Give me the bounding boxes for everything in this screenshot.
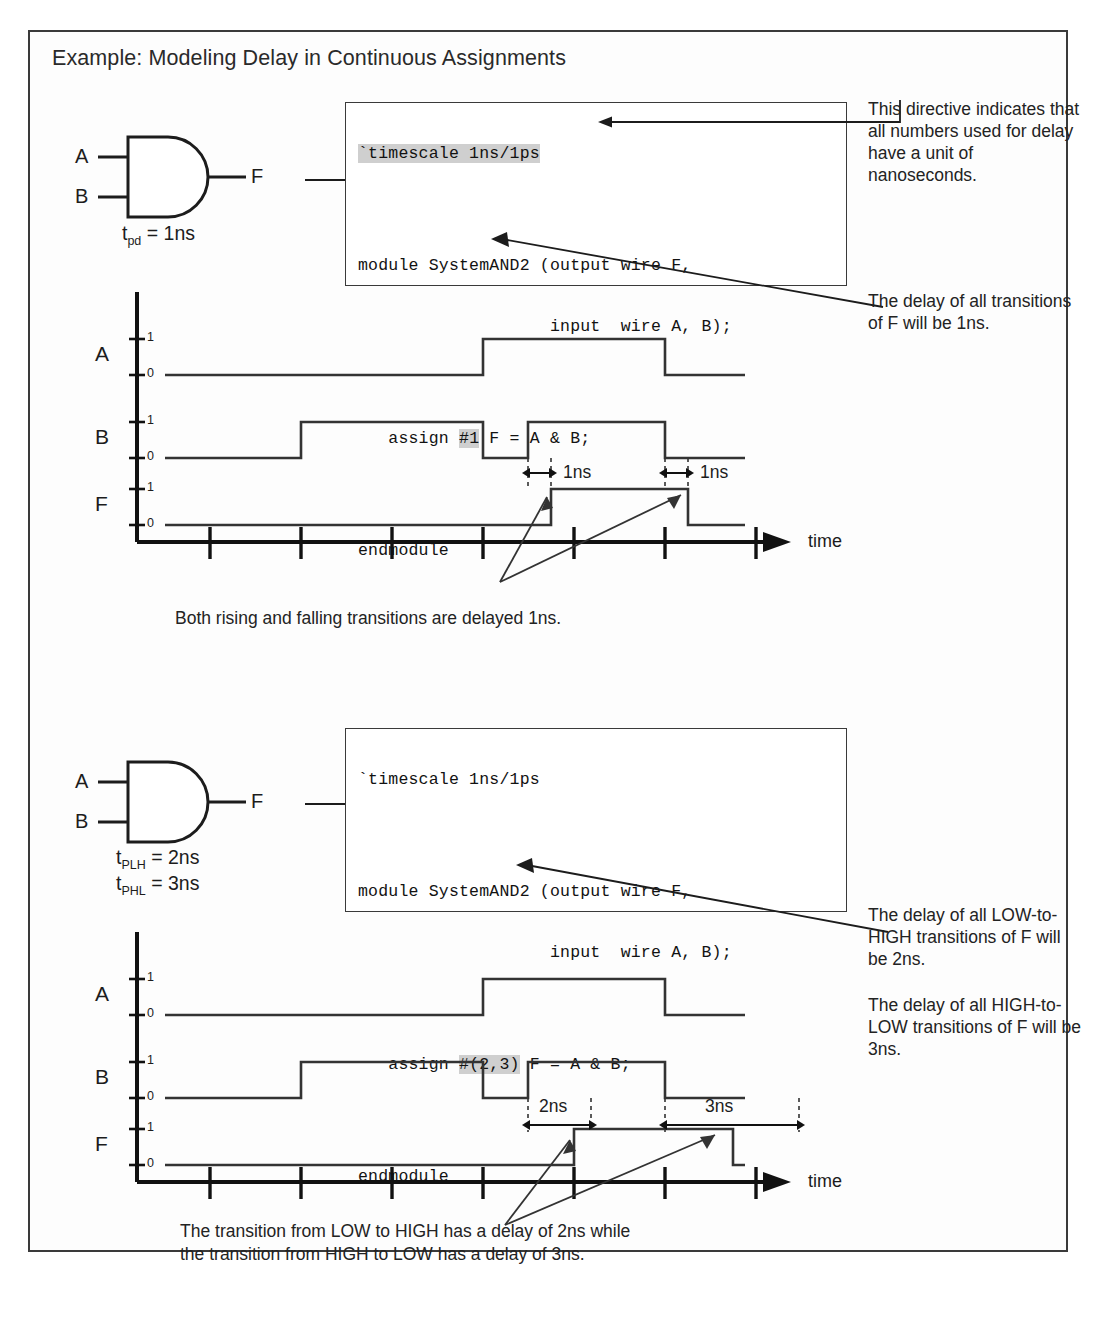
gate2-tphl-label: tPHL = 3ns (116, 872, 199, 898)
waveform1-f-high: 1 (147, 480, 154, 494)
note-low-to-high-delay: The delay of all LOW-to-HIGH transitions… (868, 904, 1083, 970)
gate2-tphl-value: = 3ns (146, 872, 200, 894)
gate1-input-b-label: B (75, 185, 88, 208)
waveform1-delay-marker-1: 1ns (563, 462, 591, 483)
waveform2-b-low: 0 (147, 1089, 154, 1103)
note1-leader-line (590, 92, 902, 138)
code1-line-1: `timescale 1ns/1ps (358, 146, 834, 174)
gate2-input-b-label: B (75, 810, 88, 833)
and-gate-2: A B F tPLH = 2ns tPHL = 3ns (50, 742, 350, 917)
waveform1-f-low: 0 (147, 516, 154, 530)
waveform1-b-low: 0 (147, 449, 154, 463)
timing-diagram-2-svg (85, 922, 875, 1212)
note1-leader-svg (590, 92, 902, 138)
code2-line-1: `timescale 1ns/1ps (358, 772, 834, 800)
caption-section-1: Both rising and falling transitions are … (175, 607, 561, 630)
timing-diagram-1-svg (85, 282, 875, 572)
note-transition-delay-1ns: The delay of all transitions of F will b… (868, 290, 1083, 334)
note-high-to-low-delay: The delay of all HIGH-to-LOW transitions… (868, 994, 1083, 1060)
waveform2-signal-a: A (95, 982, 109, 1006)
waveform2-delay-marker-1: 2ns (539, 1096, 567, 1117)
gate2-input-a-label: A (75, 770, 88, 793)
gate1-input-a-label: A (75, 145, 88, 168)
gate2-output-f-label: F (251, 790, 263, 813)
waveform2-signal-b: B (95, 1065, 109, 1089)
note-timescale-directive: This directive indicates that all number… (868, 98, 1083, 186)
gate1-tpd-value: = 1ns (141, 222, 195, 244)
waveform1-a-high: 1 (147, 330, 154, 344)
slide-frame: Example: Modeling Delay in Continuous As… (28, 30, 1068, 1252)
code1-timescale-highlight: `timescale 1ns/1ps (358, 144, 540, 163)
timing-diagram-2: A B F 1 0 1 0 1 0 2ns 3ns time (85, 922, 875, 1212)
waveform2-f-low: 0 (147, 1156, 154, 1170)
waveform2-b-high: 1 (147, 1053, 154, 1067)
code1-spacer-1 (358, 207, 834, 225)
page-title: Example: Modeling Delay in Continuous As… (52, 46, 566, 71)
waveform2-a-high: 1 (147, 970, 154, 984)
timing-diagram-1: A B F 1 0 1 0 1 0 1ns 1ns time (85, 282, 875, 572)
waveform2-axis-label: time (808, 1171, 842, 1192)
waveform1-signal-a: A (95, 342, 109, 366)
gate2-tphl-sub: PHL (121, 884, 145, 898)
gate2-tplh-value: = 2ns (146, 846, 200, 868)
and-gate-2-svg (50, 742, 350, 917)
waveform2-f-high: 1 (147, 1120, 154, 1134)
caption-section-2: The transition from LOW to HIGH has a de… (180, 1220, 630, 1266)
gate1-tpd-sub: pd (127, 234, 141, 248)
gate2-tplh-sub: PLH (121, 858, 145, 872)
waveform2-delay-marker-2: 3ns (705, 1096, 733, 1117)
waveform1-axis-label: time (808, 531, 842, 552)
waveform1-delay-marker-2: 1ns (700, 462, 728, 483)
waveform1-signal-b: B (95, 425, 109, 449)
gate1-output-f-label: F (251, 165, 263, 188)
gate1-tpd-label: tpd = 1ns (122, 222, 195, 248)
waveform2-signal-f: F (95, 1132, 108, 1156)
waveform1-a-low: 0 (147, 366, 154, 380)
code2-spacer-1 (358, 833, 834, 851)
gate2-tplh-label: tPLH = 2ns (116, 846, 199, 872)
waveform2-a-low: 0 (147, 1006, 154, 1020)
waveform1-signal-f: F (95, 492, 108, 516)
waveform1-b-high: 1 (147, 413, 154, 427)
